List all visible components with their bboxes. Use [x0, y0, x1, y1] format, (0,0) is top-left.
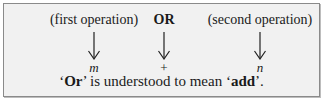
caption: ‘Or’ is understood to mean ‘add’.	[4, 72, 319, 90]
caption-middle: ’ is understood to mean ‘	[82, 73, 230, 89]
or-label: OR	[144, 12, 184, 28]
caption-or: Or	[64, 73, 82, 89]
second-operation-column: (second operation) n	[201, 12, 319, 75]
first-operation-label: (first operation)	[42, 12, 146, 28]
down-arrow-icon	[254, 32, 266, 60]
down-arrow-icon	[88, 32, 100, 60]
caption-add: add	[231, 73, 255, 89]
down-arrow-icon	[158, 32, 170, 60]
explanation-box: (first operation) m OR + (second operati…	[3, 3, 320, 97]
or-column: OR +	[144, 12, 184, 75]
second-operation-label: (second operation)	[201, 12, 319, 28]
first-operation-column: (first operation) m	[42, 12, 146, 75]
caption-end: ’.	[255, 73, 264, 89]
